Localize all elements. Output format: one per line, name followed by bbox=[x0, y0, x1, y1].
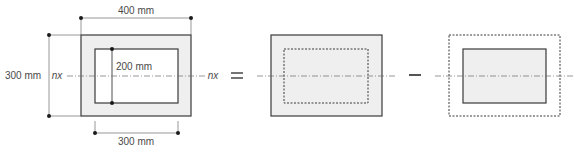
dim-label-300-width: 300 mm bbox=[118, 136, 154, 147]
equals-sign bbox=[231, 73, 243, 78]
axis-label-right: nx bbox=[208, 70, 220, 81]
dim-label-300-height: 300 mm bbox=[5, 70, 41, 81]
solid-inner-section bbox=[435, 35, 574, 116]
dimension-top: 400 mm bbox=[79, 5, 193, 35]
dim-label-400: 400 mm bbox=[118, 5, 154, 16]
dimension-left: 300 mm bbox=[5, 33, 81, 118]
outer-rectangle bbox=[271, 35, 382, 116]
solid-outer-section bbox=[257, 35, 395, 116]
hollow-section: 400 mm 300 mm 200 mm 300 mm bbox=[5, 5, 219, 147]
axis-label-left: nx bbox=[52, 70, 64, 81]
section-diagram: 400 mm 300 mm 200 mm 300 mm bbox=[0, 0, 585, 147]
dimension-bottom: 300 mm bbox=[93, 121, 180, 147]
dim-label-200: 200 mm bbox=[116, 61, 152, 72]
